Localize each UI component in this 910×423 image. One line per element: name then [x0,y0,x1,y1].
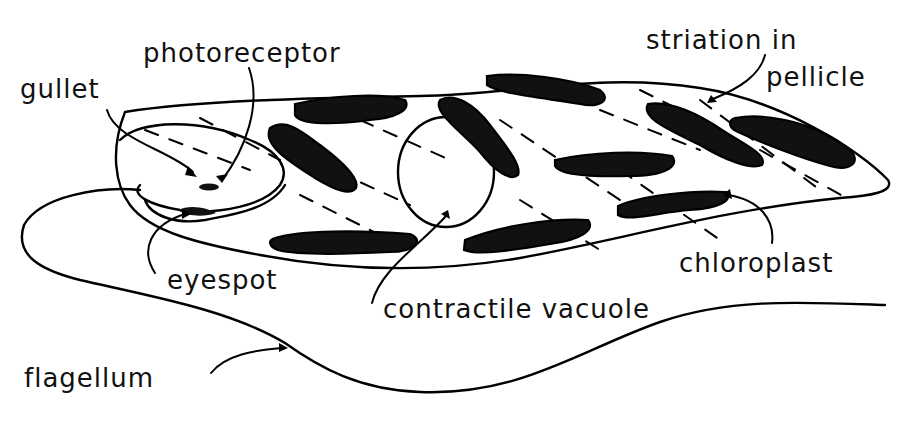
label-flagellum: flagellum [24,365,154,391]
label-contractile-vacuole: contractile vacuole [383,296,650,322]
photoreceptor-shape [199,184,219,191]
label-striation-line1: striation in [646,27,797,53]
gullet-outline [120,124,284,211]
eyespot-loop [145,185,285,221]
label-photoreceptor: photoreceptor [143,40,341,66]
flagellum-body-line [22,189,885,392]
label-gullet: gullet [20,76,100,102]
label-eyespot: eyespot [167,267,278,293]
label-chloroplast: chloroplast [679,250,833,276]
label-striation-line2: pellicle [766,64,866,90]
chloroplasts [269,75,855,254]
